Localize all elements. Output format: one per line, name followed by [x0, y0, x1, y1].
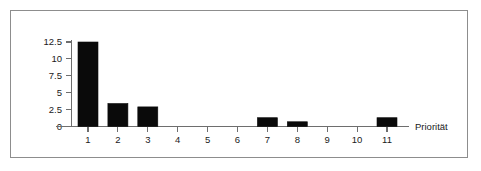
y-tick-label: 2.5 — [49, 104, 62, 115]
bar — [287, 122, 307, 127]
bar-chart-svg: 02.557.51012.5 1234567891011 Priorität — [0, 0, 481, 171]
x-tick-label: 6 — [235, 134, 240, 145]
x-tick-label: 3 — [145, 134, 150, 145]
plot-area: 02.557.51012.5 1234567891011 Priorität — [0, 0, 481, 171]
chart-figure: 02.557.51012.5 1234567891011 Priorität — [0, 0, 481, 171]
y-axis: 02.557.51012.5 — [44, 36, 72, 131]
x-axis: 1234567891011 — [56, 127, 409, 145]
y-tick-label: 5 — [57, 87, 62, 98]
bar — [108, 104, 128, 127]
x-tick-label: 11 — [382, 134, 392, 145]
x-axis-title: Priorität — [415, 121, 448, 132]
y-tick-label: 12.5 — [44, 36, 63, 47]
bar — [377, 118, 397, 127]
x-tick-label: 4 — [175, 134, 180, 145]
x-tick-label: 7 — [265, 134, 270, 145]
x-tick-label: 5 — [205, 134, 210, 145]
x-tick-label: 8 — [295, 134, 300, 145]
y-tick-label: 10 — [51, 53, 62, 64]
x-tick-label: 10 — [352, 134, 363, 145]
bar — [138, 107, 158, 127]
y-tick-label: 7.5 — [49, 70, 62, 81]
bar — [78, 42, 98, 127]
x-tick-label: 9 — [325, 134, 330, 145]
x-tick-group: 1234567891011 — [85, 127, 392, 145]
y-tick-group: 02.557.51012.5 — [44, 36, 72, 131]
x-tick-label: 1 — [85, 134, 90, 145]
bar — [257, 118, 277, 127]
bar-group — [78, 42, 397, 127]
x-tick-label: 2 — [115, 134, 120, 145]
